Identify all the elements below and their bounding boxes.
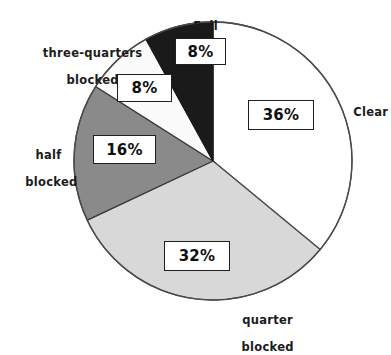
- category-label-clear: Clear: [336, 92, 382, 133]
- value-box-three-quarters-blocked: 8%: [117, 74, 172, 102]
- category-label-half-line1: half: [36, 148, 62, 162]
- category-label-quarter-blocked: quarter blocked: [222, 300, 296, 355]
- value-box-half-blocked: 16%: [93, 135, 156, 164]
- category-label-half-line2: blocked: [25, 175, 77, 189]
- category-label-clear-text: Clear: [353, 105, 388, 119]
- value-box-quarter-blocked: 32%: [164, 241, 230, 271]
- category-label-full-text: Full: [193, 19, 218, 33]
- category-label-three-quarters-line1: three-quarters: [43, 46, 143, 60]
- category-label-quarter-line2: blocked: [241, 340, 293, 354]
- value-box-full: 8%: [175, 38, 226, 65]
- value-box-clear: 36%: [248, 100, 314, 130]
- category-label-three-quarters-line2: blocked: [66, 73, 118, 87]
- category-label-quarter-line1: quarter: [242, 313, 293, 327]
- category-label-half-blocked: half blocked: [8, 135, 72, 203]
